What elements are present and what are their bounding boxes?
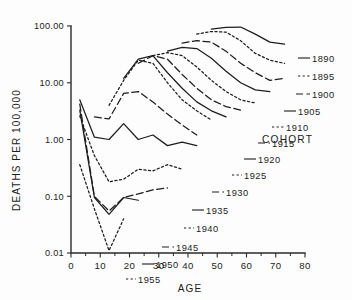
series-line-1930	[94, 92, 196, 135]
series-line-1925	[109, 60, 211, 120]
x-tick-label: 80	[299, 260, 310, 271]
series-label-1925: 1925	[244, 171, 267, 181]
x-tick-label: 20	[124, 260, 135, 271]
series-label-1920: 1920	[258, 155, 281, 165]
series-line-1895	[197, 32, 285, 64]
series-label-1895: 1895	[312, 72, 335, 82]
series-label-1955: 1955	[138, 275, 161, 285]
y-axis-title: DEATHS PER 100,000	[11, 89, 22, 211]
series-line-1920	[124, 56, 226, 117]
x-tick-label: 0	[68, 260, 74, 271]
y-tick-label: 0.01	[45, 248, 64, 258]
series-line-1890	[211, 27, 284, 44]
chart-figure: 0.010.101.0010.00100.0001020304050607080…	[0, 0, 352, 300]
series-label-1890: 1890	[312, 54, 335, 64]
x-axis-title: AGE	[178, 283, 202, 294]
series-line-1955	[80, 165, 124, 251]
y-tick-label: 100.00	[34, 21, 64, 31]
series-line-1900	[182, 41, 284, 81]
x-tick-label: 10	[95, 260, 106, 271]
series-label-1900: 1900	[312, 90, 335, 100]
series-line-1950	[80, 110, 138, 214]
series-line-1945	[80, 104, 168, 211]
x-tick-label: 50	[212, 260, 223, 271]
series-line-1905	[168, 47, 270, 91]
series-line-1940	[80, 116, 182, 182]
axes: 0.010.101.0010.00100.0001020304050607080	[34, 21, 311, 271]
series-label-1910: 1910	[286, 123, 309, 133]
series-label-1935: 1935	[206, 206, 229, 216]
x-tick-label: 60	[241, 260, 252, 271]
y-tick-label: 10.00	[40, 78, 65, 88]
x-tick-label: 40	[182, 260, 193, 271]
legend-title: COHORT	[262, 134, 313, 145]
y-tick-label: 0.10	[45, 192, 64, 202]
series-label-1930: 1930	[226, 188, 249, 198]
series-curves	[80, 27, 285, 251]
y-tick-label: 1.00	[45, 135, 64, 145]
x-tick-label: 70	[270, 260, 281, 271]
series-label-1945: 1945	[176, 243, 199, 253]
series-label-1940: 1940	[196, 224, 219, 234]
series-label-1905: 1905	[298, 107, 321, 117]
series-label-1950: 1950	[156, 260, 179, 270]
deaths-by-age-cohort-chart: 0.010.101.0010.00100.0001020304050607080…	[0, 0, 352, 300]
